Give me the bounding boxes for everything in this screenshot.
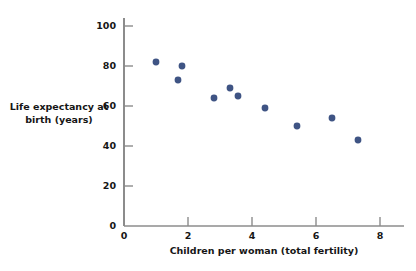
y-axis-title-line-2: birth (years) — [6, 113, 112, 126]
plot-area — [0, 0, 416, 271]
y-tick-label-20: 20 — [92, 180, 116, 191]
x-axis-title: Children per woman (total fertility) — [124, 245, 404, 256]
y-axis-ticks — [124, 26, 133, 186]
y-axis-title-line-1: Life expectancy at — [6, 100, 112, 113]
x-axis-ticks — [124, 217, 380, 226]
x-tick-label-8: 8 — [370, 230, 390, 241]
data-point — [211, 95, 218, 102]
x-tick-label-2: 2 — [178, 230, 198, 241]
data-point — [175, 77, 182, 84]
y-tick-label-100: 100 — [92, 20, 116, 31]
data-point-group — [153, 59, 362, 144]
data-point — [179, 63, 186, 70]
x-tick-label-4: 4 — [242, 230, 262, 241]
data-point — [227, 85, 234, 92]
data-point — [294, 123, 301, 130]
y-tick-label-40: 40 — [92, 140, 116, 151]
data-point — [153, 59, 160, 66]
data-point — [262, 105, 269, 112]
scatter-chart: 100 80 60 40 20 0 0 2 4 6 8 Life expecta… — [0, 0, 416, 271]
y-axis-title: Life expectancy at birth (years) — [6, 100, 112, 126]
y-tick-label-0: 0 — [92, 220, 116, 231]
data-point — [329, 115, 336, 122]
x-tick-label-0: 0 — [114, 230, 134, 241]
y-tick-label-80: 80 — [92, 60, 116, 71]
x-tick-label-6: 6 — [306, 230, 326, 241]
data-point — [235, 93, 242, 100]
data-point — [355, 137, 362, 144]
